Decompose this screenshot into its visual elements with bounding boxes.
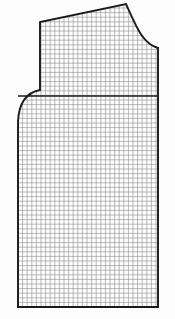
pattern-diagram bbox=[0, 0, 175, 319]
pattern-canvas bbox=[0, 0, 175, 319]
